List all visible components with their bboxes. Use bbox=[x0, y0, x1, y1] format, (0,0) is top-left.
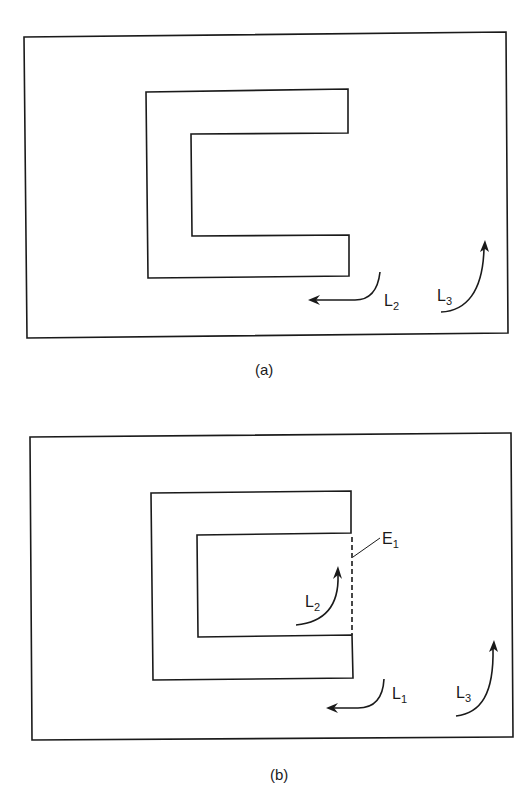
panel-b: E1 L2 L1 L3 (b) bbox=[30, 433, 513, 783]
e1-leader-line bbox=[353, 538, 380, 557]
caption-b: (b) bbox=[270, 766, 288, 783]
label-l3-b: L3 bbox=[456, 684, 471, 704]
outer-boundary-b bbox=[30, 433, 513, 740]
panel-a: L2 L3 (a) bbox=[24, 32, 508, 378]
label-l2-b: L2 bbox=[305, 593, 320, 613]
label-l3-a: L3 bbox=[437, 287, 452, 307]
loop-arrow-l2-b bbox=[296, 566, 342, 625]
u-shaped-conductor-a bbox=[146, 89, 349, 278]
label-l2-a: L2 bbox=[384, 292, 399, 312]
u-shaped-conductor-b bbox=[151, 491, 353, 680]
outer-boundary-a bbox=[24, 32, 508, 338]
diagram-canvas: L2 L3 (a) E1 L2 L1 bbox=[0, 0, 531, 797]
label-e1: E1 bbox=[382, 530, 399, 550]
loop-arrow-l3-b bbox=[456, 640, 498, 716]
caption-a: (a) bbox=[255, 361, 273, 378]
loop-arrow-l1-b bbox=[326, 679, 384, 713]
label-l1-b: L1 bbox=[392, 685, 407, 705]
